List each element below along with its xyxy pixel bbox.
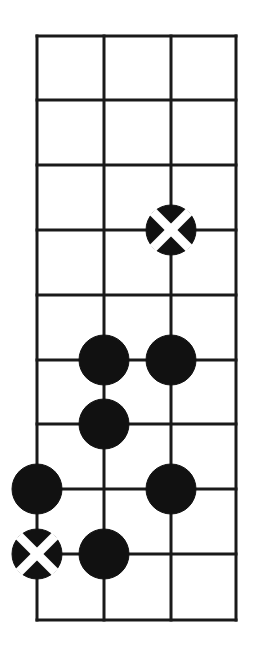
stone-disc [146,464,196,514]
marked-black-stone[interactable] [12,529,62,579]
stone-disc [12,464,62,514]
black-stone[interactable] [146,335,196,385]
marked-black-stone[interactable] [146,205,196,255]
stone-disc [79,335,129,385]
black-stone[interactable] [79,335,129,385]
stone-disc [146,335,196,385]
go-board-canvas [0,0,260,656]
black-stone[interactable] [12,464,62,514]
go-board-diagram [0,0,260,656]
stone-disc [79,399,129,449]
black-stone[interactable] [79,399,129,449]
stone-disc [79,529,129,579]
black-stone[interactable] [79,529,129,579]
black-stone[interactable] [146,464,196,514]
